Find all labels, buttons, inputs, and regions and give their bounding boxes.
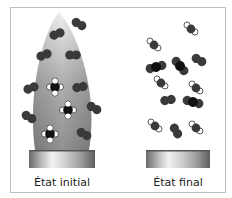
molecule-o2 [160, 94, 177, 106]
molecule-co2 [169, 55, 190, 78]
molecule-h2o [148, 119, 162, 132]
molecule-h2o [189, 121, 203, 134]
label-initial-state: État initial [22, 176, 102, 189]
molecule-h2o [184, 22, 198, 35]
burner-final [146, 150, 210, 168]
molecule-h2o [147, 38, 161, 51]
molecule-co2 [181, 94, 204, 109]
molecule-co2 [144, 59, 167, 74]
molecule-o2 [190, 52, 208, 68]
molecule-o2 [168, 122, 184, 140]
molecule-o2 [70, 16, 88, 32]
molecule-h2o [189, 81, 203, 94]
combustion-diagram [0, 0, 232, 198]
molecule-h2o [154, 76, 168, 89]
molecule-o2 [65, 50, 81, 59]
label-final-state: État final [138, 176, 218, 189]
burner-initial [29, 150, 95, 168]
